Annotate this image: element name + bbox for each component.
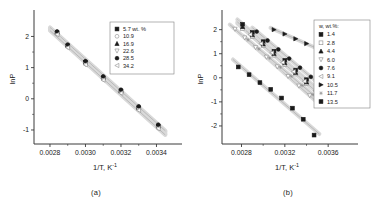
data-point-square-filled <box>115 27 119 31</box>
data-point-circle-filled <box>84 59 88 63</box>
x-tick-label: 0.0028 <box>40 149 61 156</box>
data-point-star-open <box>300 84 304 88</box>
data-point-circle-filled <box>101 74 105 78</box>
panel-b-caption: (b) <box>192 188 384 197</box>
legend-label: 22.6 <box>123 48 134 54</box>
data-point-square-filled <box>319 100 323 104</box>
y-axis-title: lnP <box>8 74 17 85</box>
data-point-circle-filled <box>115 56 119 60</box>
x-tick-label: 0.0030 <box>75 149 96 156</box>
x-axis-title: 1/T, K-1 <box>275 162 299 172</box>
y-tick-label: 1 <box>213 50 217 57</box>
data-point-circle-open <box>115 34 119 38</box>
legend-label: 1.4 <box>327 31 335 37</box>
x-axis-title: 1/T, K-1 <box>93 162 117 172</box>
panel-b-plot: 0.00280.00320.0036-2-10121/T, K-1lnPw, w… <box>192 0 384 178</box>
y-tick-label: 1 <box>25 64 29 71</box>
y-tick-label: 0 <box>213 74 217 81</box>
legend-label: 34.2 <box>123 63 134 69</box>
legend-label: 4.4 <box>327 48 335 54</box>
data-point-square-filled <box>319 33 323 37</box>
x-tick-label: 0.0028 <box>231 149 252 156</box>
data-point-square-filled <box>269 87 273 91</box>
data-point-star-open <box>246 38 250 42</box>
legend-label: 10.5 <box>327 82 338 88</box>
data-point-square-filled <box>312 133 316 137</box>
data-point-star-open <box>289 74 293 78</box>
y-tick-label: -1 <box>211 98 217 105</box>
legend-label: 5.7 wt. % <box>123 26 146 32</box>
legend-label: 7.6 <box>327 65 335 71</box>
legend-title: w, wt.%: <box>318 23 339 29</box>
data-point-circle-filled <box>137 104 141 108</box>
data-point-circle-filled <box>309 75 313 79</box>
legend-label: 6.0 <box>327 57 335 63</box>
panel-a-plot: 0.00280.00300.00320.0034-10121/T, K-1lnP… <box>0 0 192 178</box>
x-tick-label: 0.0032 <box>111 149 132 156</box>
y-tick-label: 0 <box>25 95 29 102</box>
y-tick-label: 2 <box>213 26 217 33</box>
data-point-star-open <box>319 91 323 95</box>
data-point-circle-filled <box>287 57 291 61</box>
y-tick-label: -2 <box>211 122 217 129</box>
data-point-star-open <box>257 47 261 51</box>
data-point-square-filled <box>301 117 305 121</box>
data-point-circle-filled <box>266 39 270 43</box>
legend-label: 2.8 <box>327 40 335 46</box>
data-point-circle-filled <box>298 66 302 70</box>
data-point-square-open <box>319 41 323 45</box>
data-point-star-open <box>279 65 283 69</box>
x-tick-label: 0.0034 <box>146 149 167 156</box>
x-tick-label: 0.0032 <box>274 149 295 156</box>
legend-label: 9.1 <box>327 73 335 79</box>
y-axis-title: lnP <box>196 74 205 85</box>
data-point-square-filled <box>247 73 251 77</box>
data-point-square-filled <box>280 96 284 100</box>
figure-two-panel-arrhenius-plots: 0.00280.00300.00320.0034-10121/T, K-1lnP… <box>0 0 384 206</box>
data-point-circle-filled <box>276 47 280 51</box>
data-point-circle-filled <box>319 66 323 70</box>
data-point-square-filled <box>291 106 295 110</box>
data-point-circle-filled <box>156 123 160 127</box>
panel-b: 0.00280.00320.0036-2-10121/T, K-1lnPw, w… <box>192 0 384 206</box>
legend-label: 28.5 <box>123 55 134 61</box>
panel-a: 0.00280.00300.00320.0034-10121/T, K-1lnP… <box>0 0 192 206</box>
legend-label: 13.5 <box>327 99 338 105</box>
legend-label: 16.9 <box>123 41 134 47</box>
data-point-square-filled <box>258 81 262 85</box>
legend-label: 11.7 <box>327 90 337 96</box>
y-tick-label: 2 <box>25 33 29 40</box>
y-tick-label: -1 <box>23 126 29 133</box>
x-tick-label: 0.0036 <box>318 149 339 156</box>
panel-a-caption: (a) <box>0 188 192 197</box>
data-point-star-open <box>268 56 272 60</box>
data-point-square-filled <box>236 65 240 69</box>
legend-label: 10.9 <box>123 33 134 39</box>
data-point-circle-filled <box>255 30 259 34</box>
